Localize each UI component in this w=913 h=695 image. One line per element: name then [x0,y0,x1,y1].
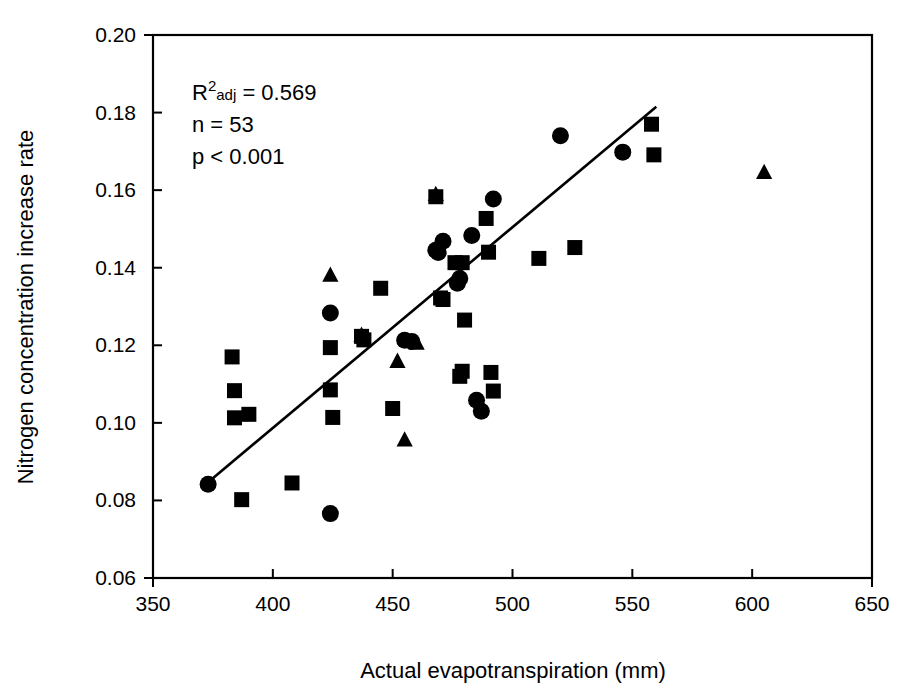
x-tick-label: 600 [735,592,770,615]
x-tick-label: 550 [615,592,650,615]
marker-triangle [756,164,772,179]
y-tick-label: 0.08 [95,488,136,511]
marker-circle [322,305,339,322]
marker-square [373,281,388,296]
marker-square [225,349,240,364]
x-tick-label: 350 [135,592,170,615]
x-tick-label: 500 [495,592,530,615]
marker-square [325,410,340,425]
y-tick-label: 0.14 [95,256,136,279]
series-circles [200,127,632,522]
y-tick-label: 0.12 [95,333,136,356]
marker-circle [322,505,339,522]
marker-circle [552,127,569,144]
marker-circle [614,144,631,161]
stats-annotation: R2adj = 0.569 n = 53 p < 0.001 [192,77,316,169]
marker-circle [434,233,451,250]
y-axis-tick-labels: 0.060.080.100.120.140.160.180.20 [95,23,136,589]
marker-circle [200,476,217,493]
marker-square [531,251,546,266]
data-markers [200,117,773,522]
marker-square [567,240,582,255]
marker-square [481,245,496,260]
figure-container: 350400450500550600650 0.060.080.100.120.… [0,0,913,695]
marker-triangle [397,431,413,446]
marker-square [227,383,242,398]
marker-square [455,255,470,270]
marker-triangle [322,266,338,281]
marker-square [227,410,242,425]
marker-square [455,364,470,379]
marker-square [646,147,661,162]
x-axis-title: Actual evapotranspiration (mm) [360,658,666,683]
marker-circle [473,403,490,420]
p-annotation: p < 0.001 [192,144,284,169]
scatter-plot: 350400450500550600650 0.060.080.100.120.… [0,0,913,695]
marker-square [323,382,338,397]
marker-square [385,401,400,416]
marker-square [457,313,472,328]
y-tick-label: 0.06 [95,566,136,589]
marker-circle [463,227,480,244]
series-squares [225,117,662,507]
marker-square [285,475,300,490]
marker-square [486,384,501,399]
n-annotation: n = 53 [192,112,254,137]
marker-triangle [389,353,405,368]
marker-square [241,407,256,422]
plot-frame [153,35,872,578]
marker-square [644,117,659,132]
y-tick-label: 0.18 [95,101,136,124]
marker-circle [485,191,502,208]
marker-square [323,340,338,355]
marker-square [234,492,249,507]
marker-square [435,292,450,307]
y-tick-label: 0.20 [95,23,136,46]
y-axis-title: Nitrogen concentration increase rate [13,130,38,485]
y-tick-label: 0.16 [95,178,136,201]
marker-circle [451,270,468,287]
x-tick-label: 400 [255,592,290,615]
r2-annotation: R2adj = 0.569 [192,77,316,105]
x-tick-label: 650 [854,592,889,615]
x-axis-tick-labels: 350400450500550600650 [135,592,889,615]
y-tick-label: 0.10 [95,411,136,434]
x-tick-label: 450 [375,592,410,615]
marker-square [483,365,498,380]
marker-square [479,211,494,226]
